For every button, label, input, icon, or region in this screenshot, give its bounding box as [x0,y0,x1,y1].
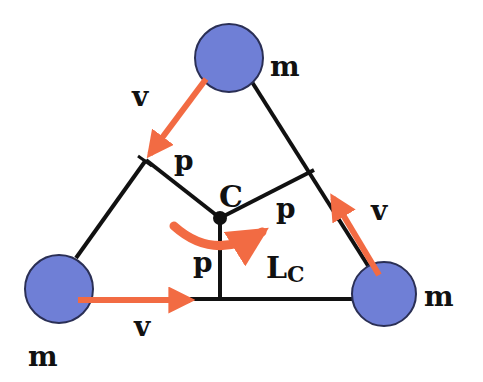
lever-arm-label-bottom: p [193,246,213,279]
mass-label-top: m [270,50,300,83]
mass-bottom-left [25,255,93,323]
mass-label-bottom-left: m [28,340,58,373]
center-label: C [219,179,243,214]
triangle-side-left [76,160,146,258]
angular-momentum-subscript: C [287,261,305,287]
mass-bottom-right [352,262,416,326]
lever-arm-label-right: p [276,192,296,225]
velocity-label-right: v [370,194,388,227]
triangle-side-right [252,82,372,272]
lever-arm-label-left: p [174,144,194,177]
velocity-arrow-top [150,79,206,154]
velocity-label-bottom: v [133,310,151,343]
angular-momentum-label: LC [266,250,305,287]
diagram-stage: m m m v v v p p p C LC [0,0,483,382]
mass-label-bottom-right: m [424,280,454,313]
angular-momentum-symbol: L [266,250,287,285]
velocity-label-top: v [131,80,149,113]
three-mass-diagram: m m m v v v p p p C LC [0,0,483,382]
